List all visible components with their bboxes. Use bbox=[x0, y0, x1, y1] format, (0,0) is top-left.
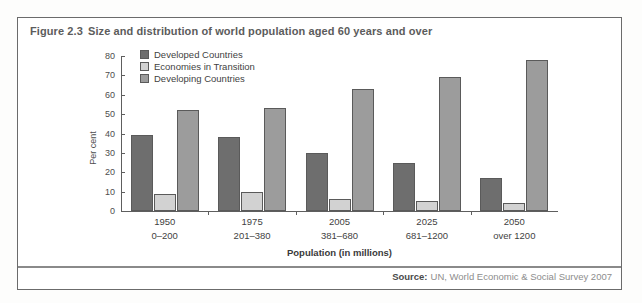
x-axis-line bbox=[121, 211, 558, 212]
y-axis-tick-label: 40 bbox=[81, 129, 121, 139]
x-tick-year: 1975 bbox=[242, 216, 263, 227]
y-axis-tick-label: 30 bbox=[81, 148, 121, 158]
bar bbox=[218, 137, 240, 211]
x-tick-year: 2005 bbox=[329, 216, 350, 227]
legend-label: Economies in Transition bbox=[154, 61, 255, 72]
x-axis-tick-labels: 19500–2001975201–3802005381–6802025681–1… bbox=[121, 215, 558, 243]
bar bbox=[241, 192, 263, 211]
x-tick-range: 681–1200 bbox=[383, 229, 470, 243]
legend-item: Economies in Transition bbox=[140, 61, 255, 72]
x-tick-range: 381–680 bbox=[296, 229, 383, 243]
x-tick-year: 2025 bbox=[416, 216, 437, 227]
y-axis-tick-label: 20 bbox=[81, 167, 121, 177]
figure-container: Figure 2.3Size and distribution of world… bbox=[17, 17, 622, 290]
source-label: Source: bbox=[392, 271, 427, 282]
bar bbox=[352, 89, 374, 211]
bar bbox=[480, 178, 502, 211]
source-text: UN, World Economic & Social Survey 2007 bbox=[431, 271, 612, 282]
y-axis-tick-label: 80 bbox=[81, 51, 121, 61]
source-note: Source:UN, World Economic & Social Surve… bbox=[392, 271, 612, 282]
bar-group bbox=[471, 56, 558, 211]
bar bbox=[329, 199, 351, 211]
legend-label: Developing Countries bbox=[154, 73, 245, 84]
bar bbox=[503, 203, 525, 211]
legend-item: Developing Countries bbox=[140, 73, 255, 84]
x-axis-title: Population (in millions) bbox=[121, 247, 558, 258]
x-axis-tick-label: 19500–200 bbox=[121, 215, 208, 243]
legend-label: Developed Countries bbox=[154, 49, 243, 60]
x-axis-tick-label: 2050over 1200 bbox=[471, 215, 558, 243]
y-axis-tick-label: 0 bbox=[81, 206, 121, 216]
figure-title: Figure 2.3Size and distribution of world… bbox=[30, 25, 432, 37]
bar bbox=[526, 60, 548, 211]
chart-area: Per cent 01020304050607080 Developed Cou… bbox=[18, 47, 623, 266]
bar bbox=[154, 194, 176, 211]
y-axis-tick-label: 50 bbox=[81, 109, 121, 119]
bar bbox=[416, 201, 438, 211]
bar bbox=[177, 110, 199, 211]
bar bbox=[393, 163, 415, 211]
x-tick-year: 1950 bbox=[154, 216, 175, 227]
figure-number: Figure 2.3 bbox=[30, 25, 83, 37]
bar bbox=[306, 153, 328, 211]
footer-divider bbox=[18, 266, 621, 268]
y-axis-tick-label: 10 bbox=[81, 187, 121, 197]
legend-swatch bbox=[140, 50, 149, 59]
bar bbox=[131, 135, 153, 211]
legend-swatch bbox=[140, 62, 149, 71]
bar bbox=[439, 77, 461, 211]
y-axis-tick-label: 70 bbox=[81, 70, 121, 80]
bar bbox=[264, 108, 286, 211]
bar-group bbox=[296, 56, 383, 211]
x-tick-range: 0–200 bbox=[121, 229, 208, 243]
legend-item: Developed Countries bbox=[140, 49, 255, 60]
x-tick-year: 2050 bbox=[504, 216, 525, 227]
y-axis-tick-label: 60 bbox=[81, 90, 121, 100]
x-tick-range: over 1200 bbox=[471, 229, 558, 243]
figure-title-text: Size and distribution of world populatio… bbox=[88, 25, 432, 37]
legend-swatch bbox=[140, 74, 149, 83]
chart-legend: Developed CountriesEconomies in Transiti… bbox=[140, 49, 255, 84]
x-axis-tick-label: 2025681–1200 bbox=[383, 215, 470, 243]
bar-group bbox=[383, 56, 470, 211]
x-axis-tick-label: 2005381–680 bbox=[296, 215, 383, 243]
x-tick-range: 201–380 bbox=[208, 229, 295, 243]
x-axis-tick-label: 1975201–380 bbox=[208, 215, 295, 243]
